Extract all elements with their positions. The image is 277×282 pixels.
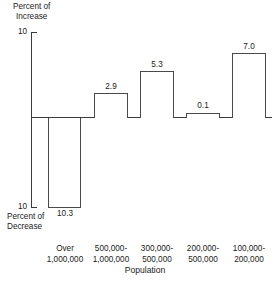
y-axis-top-label: Percent of Increase xyxy=(13,2,50,22)
bar-200000-500000 xyxy=(186,113,220,118)
value-label-over-1000000: 10.3 xyxy=(46,209,84,219)
value-label-200000-500000: 0.1 xyxy=(184,101,222,111)
y-tick-label-positive-10: 10 xyxy=(18,27,27,37)
bar-chart: Percent of Increase Percent of Decrease … xyxy=(0,0,277,282)
value-label-100000-200000: 7.0 xyxy=(230,42,268,52)
x-category-label-200000-500000: 200,000- 500,000 xyxy=(178,244,228,265)
bar-500000-1000000 xyxy=(94,93,128,118)
x-category-label-300000-500000: 300,000- 500,000 xyxy=(132,244,182,265)
value-label-300000-500000: 5.3 xyxy=(138,60,176,70)
x-category-label-over-1000000: Over 1,000,000 xyxy=(40,244,90,265)
y-axis-tick-top xyxy=(31,32,37,33)
value-label-500000-1000000: 2.9 xyxy=(92,82,130,92)
bar-over-1000000 xyxy=(48,118,81,208)
x-category-label-500000-1000000: 500,000- 1,000,000 xyxy=(86,244,136,265)
bar-300000-500000 xyxy=(140,71,174,118)
x-category-label-100000-200000: 100,000- 200,000 xyxy=(224,244,274,265)
y-axis-tick-bottom xyxy=(31,207,37,208)
bar-100000-200000 xyxy=(232,53,266,118)
y-axis-bottom-label: Percent of Decrease xyxy=(7,212,44,232)
y-axis-line xyxy=(31,32,32,208)
x-axis-title: Population xyxy=(95,265,195,276)
y-tick-label-negative-10: 10 xyxy=(18,202,27,212)
